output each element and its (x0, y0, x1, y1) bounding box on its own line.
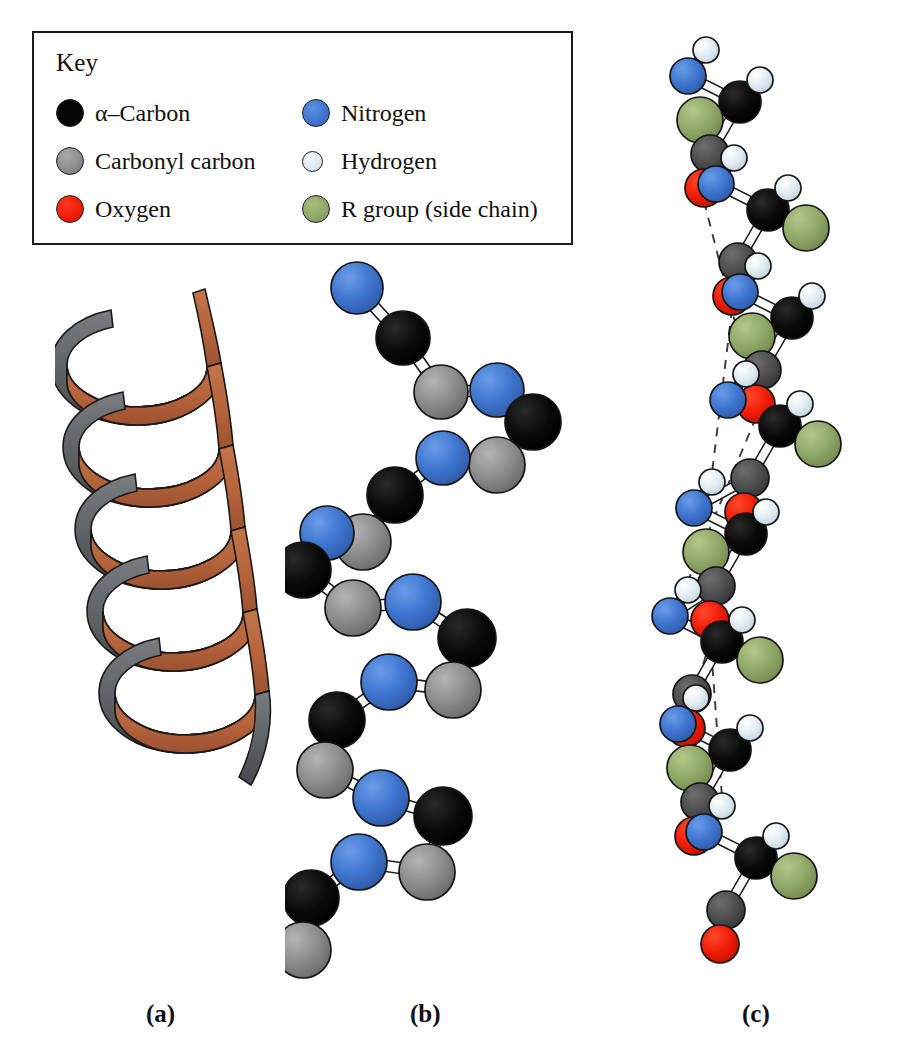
atom-sphere-icon (721, 145, 747, 171)
ribbon-turn (55, 310, 221, 425)
legend-item-oxygen: Oxygen (56, 185, 256, 233)
atom-sphere-icon (683, 685, 709, 711)
atom-sphere-icon (660, 706, 696, 742)
atom-sphere-icon (425, 662, 481, 718)
legend-item-label: Nitrogen (341, 101, 426, 125)
legend-item-label: R group (side chain) (341, 197, 538, 221)
legend-item-alpha-carbon: α–Carbon (56, 89, 256, 137)
atom-sphere-icon (414, 365, 468, 419)
atom-sphere-icon (309, 692, 365, 748)
atom-sphere-icon (652, 598, 688, 634)
atom-sphere-icon (731, 459, 769, 497)
legend-item-carbonyl-carbon: Carbonyl carbon (56, 137, 256, 185)
atom-sphere-icon (799, 283, 825, 309)
atom-sphere-icon (745, 253, 771, 279)
atom-sphere-icon (693, 37, 719, 63)
atom-sphere-icon (697, 567, 735, 605)
legend-item-label: Carbonyl carbon (95, 149, 256, 173)
atom-sphere-icon (698, 166, 734, 202)
legend-item-label: Hydrogen (341, 149, 437, 173)
panel-label-a: (a) (146, 1000, 175, 1028)
atom-sphere-icon (331, 834, 387, 890)
atom-sphere-icon (414, 787, 472, 845)
atom-sphere-icon (747, 67, 773, 93)
panel-c-atomic-model (580, 18, 910, 988)
atom-sphere-icon (737, 637, 783, 683)
panel-a-ribbon-helix (55, 285, 305, 975)
atom-sphere-icon (399, 844, 455, 900)
legend-item-label: α–Carbon (95, 101, 190, 125)
atom-sphere-icon (709, 793, 735, 819)
atom-sphere-icon (676, 490, 712, 526)
legend-column-right: Nitrogen Hydrogen R group (side chain) (302, 89, 538, 233)
atom-sphere-icon (331, 262, 383, 314)
atom-sphere-icon (787, 391, 813, 417)
atom-sphere-icon (353, 770, 409, 826)
atom-sphere-icon (367, 467, 423, 523)
atom-sphere-icon (56, 195, 84, 223)
atom-sphere-icon (710, 382, 746, 418)
atom-sphere-icon (302, 99, 330, 127)
atom-sphere-icon (361, 654, 417, 710)
atom-group (652, 37, 841, 963)
atom-sphere-icon (438, 609, 496, 667)
legend-item-label: Oxygen (95, 197, 171, 221)
atom-sphere-icon (297, 742, 353, 798)
atom-sphere-icon (775, 175, 801, 201)
atom-sphere-icon (771, 853, 817, 899)
atom-sphere-icon (722, 274, 758, 310)
legend-column-left: α–Carbon Carbonyl carbon Oxygen (56, 89, 256, 233)
atom-sphere-icon (737, 715, 763, 741)
atom-sphere-icon (469, 437, 525, 493)
alpha-helix-figure: Key α–Carbon Carbonyl carbon Oxygen Nitr… (0, 0, 913, 1052)
legend-item-nitrogen: Nitrogen (302, 89, 538, 137)
legend-item-hydrogen: Hydrogen (302, 137, 538, 185)
atom-sphere-icon (56, 147, 84, 175)
panel-b-backbone (285, 250, 585, 990)
atom-sphere-icon (302, 195, 330, 223)
atom-sphere-icon (701, 925, 739, 963)
atom-sphere-icon (699, 469, 725, 495)
atom-sphere-icon (285, 870, 339, 926)
atom-sphere-icon (753, 499, 779, 525)
panel-label-c: (c) (742, 1000, 770, 1028)
ribbon-tail-top (193, 289, 221, 367)
atom-sphere-icon (783, 205, 829, 251)
legend-box: Key α–Carbon Carbonyl carbon Oxygen Nitr… (32, 31, 573, 245)
atom-sphere-icon (729, 607, 755, 633)
legend-item-r-group: R group (side chain) (302, 185, 538, 233)
atom-sphere-icon (376, 311, 430, 365)
atom-sphere-icon (56, 99, 84, 127)
atom-sphere-icon (416, 431, 470, 485)
atom-sphere-icon (763, 823, 789, 849)
atom-sphere-icon (285, 922, 331, 978)
atom-sphere-icon (686, 814, 722, 850)
atom-sphere-icon (325, 580, 381, 636)
atom-sphere-icon (707, 891, 745, 929)
atom-sphere-icon (670, 58, 706, 94)
panel-label-b: (b) (410, 1000, 441, 1028)
atom-sphere-icon (385, 574, 441, 630)
atom-sphere-icon (302, 151, 323, 172)
atom-sphere-icon (795, 421, 841, 467)
atom-sphere-icon (733, 361, 759, 387)
atom-sphere-icon (675, 577, 701, 603)
legend-title: Key (56, 49, 98, 77)
ribbon-turns (55, 289, 270, 785)
atom-sphere-icon (285, 542, 331, 598)
